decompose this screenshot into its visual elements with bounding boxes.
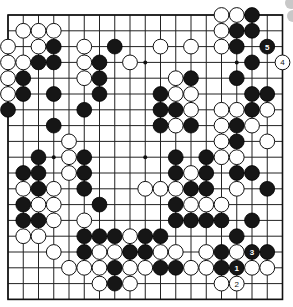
black-stone <box>138 245 153 260</box>
black-stone <box>229 39 244 54</box>
black-stone <box>214 245 229 260</box>
white-stone <box>46 181 61 196</box>
white-stone <box>214 197 229 212</box>
white-stone <box>123 229 138 244</box>
black-stone <box>245 166 260 181</box>
white-stone <box>138 260 153 275</box>
white-stone <box>46 245 61 260</box>
white-stone <box>153 245 168 260</box>
black-stone <box>77 166 92 181</box>
star-point <box>235 60 239 64</box>
black-stone <box>168 197 183 212</box>
black-stone-move-1: 1 <box>229 260 244 275</box>
white-stone <box>31 229 46 244</box>
black-stone <box>92 55 107 70</box>
black-stone <box>31 181 46 196</box>
black-stone <box>77 102 92 117</box>
black-stone <box>199 181 214 196</box>
white-stone <box>1 55 16 70</box>
white-stone <box>214 102 229 117</box>
black-stone <box>107 39 122 54</box>
black-stone <box>229 166 244 181</box>
white-stone <box>245 260 260 275</box>
black-stone <box>77 150 92 165</box>
move-number-label: 1 <box>235 264 240 273</box>
black-stone <box>16 213 31 228</box>
white-stone <box>46 213 61 228</box>
white-stone <box>1 87 16 102</box>
white-stone <box>184 87 199 102</box>
white-stone <box>214 276 229 291</box>
white-stone <box>184 260 199 275</box>
white-stone <box>184 39 199 54</box>
black-stone <box>229 71 244 86</box>
black-stone-move-3: 3 <box>245 245 260 260</box>
black-stone <box>107 260 122 275</box>
white-stone <box>77 39 92 54</box>
white-stone <box>199 245 214 260</box>
white-stone <box>153 181 168 196</box>
move-number-label: 2 <box>235 280 240 289</box>
black-stone <box>1 102 16 117</box>
white-stone <box>153 39 168 54</box>
black-stone <box>229 118 244 133</box>
black-stone <box>46 118 61 133</box>
white-stone <box>16 229 31 244</box>
black-stone <box>168 102 183 117</box>
black-stone <box>92 197 107 212</box>
black-stone <box>153 102 168 117</box>
black-stone <box>184 118 199 133</box>
white-stone <box>229 245 244 260</box>
white-stone <box>123 260 138 275</box>
white-stone <box>31 23 46 38</box>
white-stone <box>214 8 229 23</box>
black-stone <box>123 245 138 260</box>
black-stone <box>245 55 260 70</box>
black-stone <box>260 245 275 260</box>
black-stone <box>214 213 229 228</box>
white-stone <box>214 150 229 165</box>
white-stone-move-2: 2 <box>229 276 244 291</box>
black-stone <box>107 229 122 244</box>
black-stone <box>77 181 92 196</box>
black-stone <box>31 213 46 228</box>
white-stone <box>229 102 244 117</box>
white-stone <box>214 39 229 54</box>
white-stone <box>123 55 138 70</box>
corner-artifact-shapes <box>285 0 293 22</box>
white-stone <box>123 276 138 291</box>
black-stone <box>153 229 168 244</box>
move-number-label: 4 <box>280 58 285 67</box>
black-stone <box>245 102 260 117</box>
white-stone <box>77 213 92 228</box>
white-stone <box>260 260 275 275</box>
white-stone <box>31 39 46 54</box>
white-stone <box>184 197 199 212</box>
black-stone <box>184 71 199 86</box>
black-stone <box>168 260 183 275</box>
black-stone <box>245 87 260 102</box>
black-stone <box>46 39 61 54</box>
white-stone <box>16 23 31 38</box>
white-stone <box>168 87 183 102</box>
white-stone <box>214 118 229 133</box>
white-stone <box>199 197 214 212</box>
white-stone <box>16 55 31 70</box>
black-stone <box>229 229 244 244</box>
black-stone <box>245 23 260 38</box>
black-stone <box>77 245 92 260</box>
white-stone <box>92 245 107 260</box>
white-stone <box>245 118 260 133</box>
black-stone <box>199 166 214 181</box>
black-stone <box>46 87 61 102</box>
black-stone <box>31 166 46 181</box>
go-board[interactable]: 54312 <box>0 0 293 307</box>
black-stone <box>16 197 31 212</box>
black-stone <box>77 229 92 244</box>
white-stone <box>199 260 214 275</box>
white-stone <box>77 55 92 70</box>
black-stone <box>31 150 46 165</box>
white-stone <box>62 260 77 275</box>
black-stone <box>214 260 229 275</box>
move-number-label: 5 <box>265 43 270 52</box>
